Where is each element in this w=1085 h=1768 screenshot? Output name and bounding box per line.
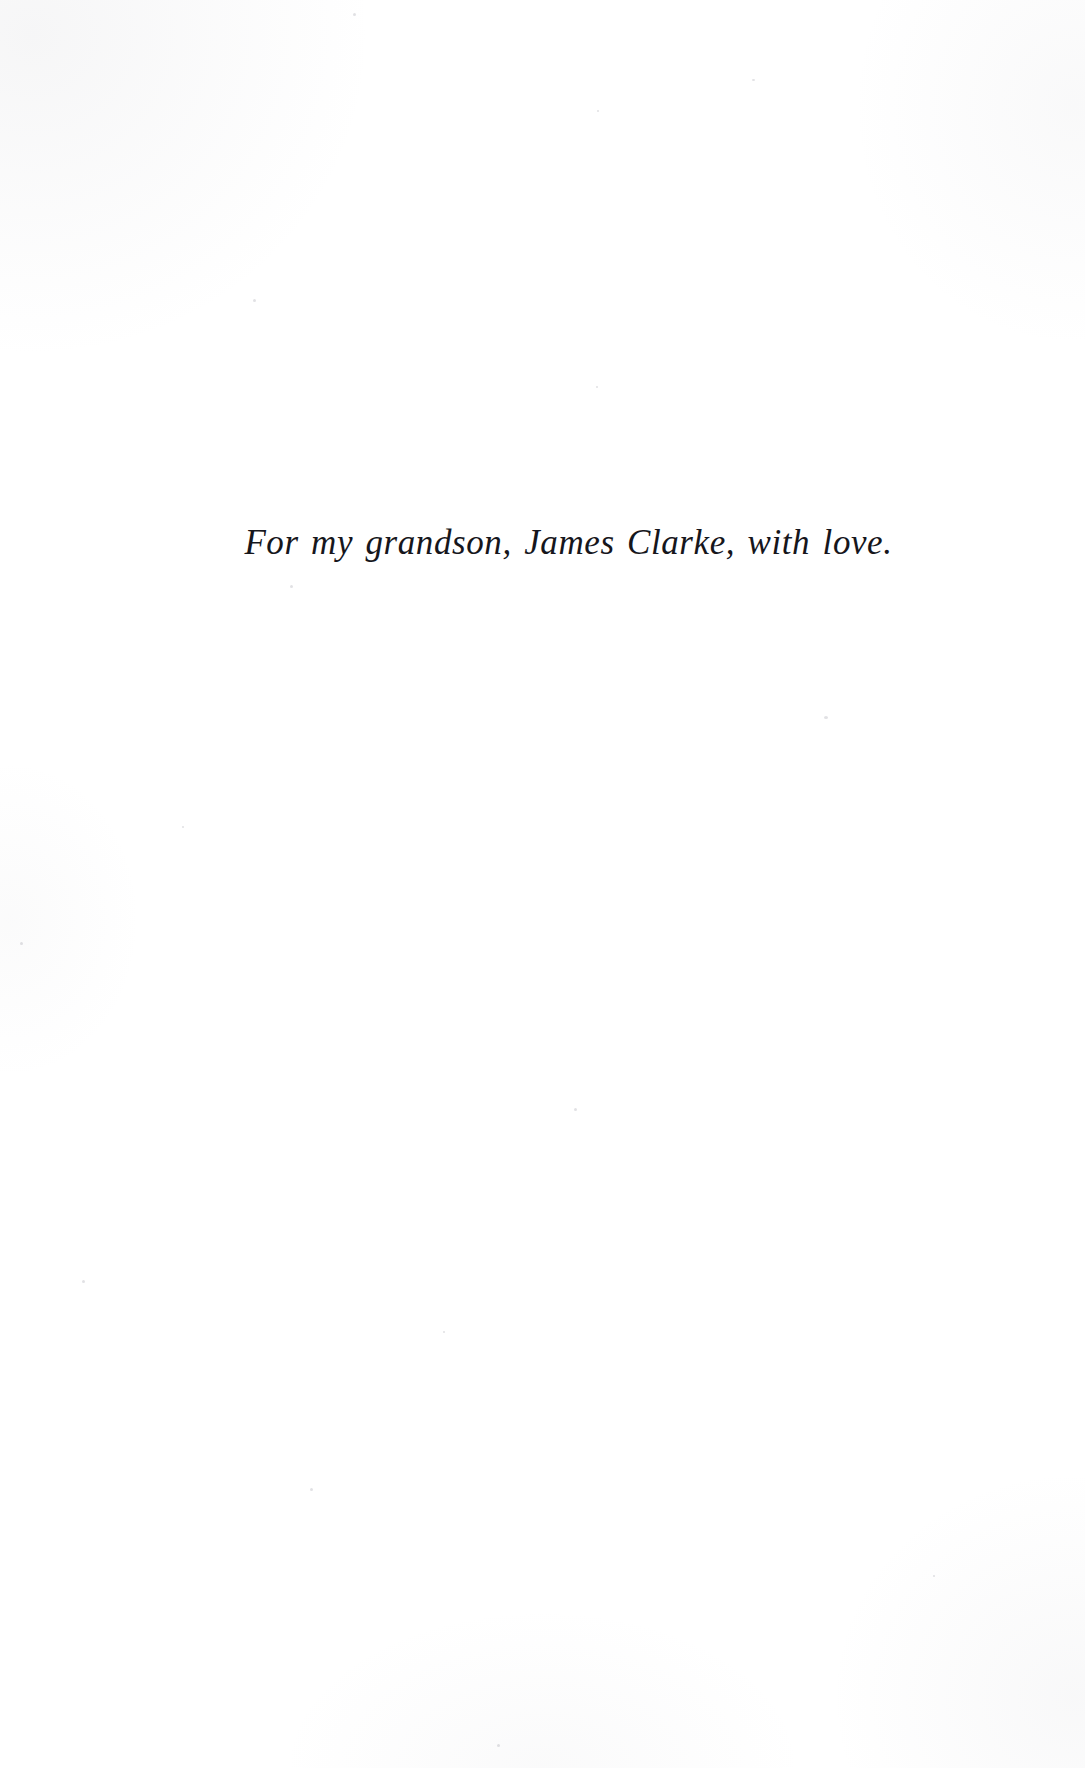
scan-speck: [596, 386, 598, 388]
scan-speck: [20, 942, 23, 945]
dedication-text: For my grandson, James Clarke, with love…: [244, 520, 892, 566]
scan-speck: [182, 826, 184, 828]
scan-speck: [290, 585, 293, 588]
scan-speck: [310, 1488, 313, 1491]
scan-speck: [933, 1575, 935, 1577]
scan-speck: [574, 1108, 577, 1111]
scan-speck: [597, 110, 599, 112]
dedication-block: For my grandson, James Clarke, with love…: [0, 520, 1085, 566]
scan-speck: [824, 716, 828, 719]
scan-speck: [353, 13, 356, 16]
scan-texture-overlay: [0, 0, 1085, 1768]
scan-speck: [253, 299, 256, 302]
scan-speck: [82, 1280, 85, 1283]
dedication-page: For my grandson, James Clarke, with love…: [0, 0, 1085, 1768]
scan-speck: [443, 1331, 445, 1333]
scan-speck: [752, 79, 755, 81]
scan-speck: [497, 1744, 500, 1747]
